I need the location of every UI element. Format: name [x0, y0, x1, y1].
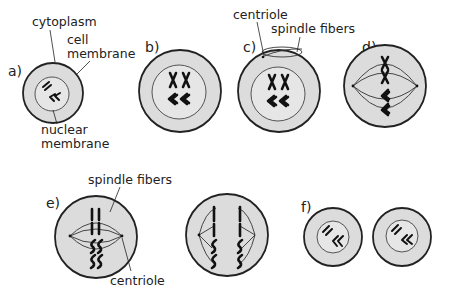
- stage-b-label: b): [145, 39, 159, 55]
- cell-d: [344, 45, 426, 127]
- centriole-d-right: [416, 85, 419, 88]
- cell-e-left: [55, 196, 137, 278]
- label-centriole-c: centriole: [233, 7, 288, 22]
- label-spindle-fibers-e: spindle fibers: [88, 172, 172, 187]
- daughter-cell-1: [304, 208, 362, 266]
- label-cell: cell: [67, 32, 89, 47]
- label-nuclear: nuclear: [41, 122, 89, 137]
- centriole-e-left: [69, 235, 72, 238]
- label-cytoplasm: cytoplasm: [32, 14, 97, 29]
- leader-centriole-c: [257, 22, 264, 56]
- stage-d: d): [344, 39, 426, 127]
- nucleus-b: [152, 65, 206, 119]
- nucleus-c: [251, 67, 305, 121]
- label-cell-membrane: membrane: [67, 46, 136, 61]
- daughter-cell-2: [373, 208, 431, 266]
- stage-c: c) centriole spindle fibers: [233, 7, 355, 132]
- centriole-e2-left: [198, 234, 201, 237]
- label-nuclear-membrane: membrane: [41, 136, 110, 151]
- stage-c-label: c): [243, 39, 256, 55]
- centriole-d-left: [352, 85, 355, 88]
- leader-cell-membrane: [76, 61, 90, 75]
- mitosis-diagram: a) cytoplasm cell membrane nuclear membr…: [0, 0, 461, 295]
- stage-f-label: f): [301, 199, 311, 215]
- stage-e-label: e): [46, 195, 60, 211]
- leader-cytoplasm: [50, 30, 55, 62]
- centriole-e-right: [121, 235, 124, 238]
- centriole-c: [262, 56, 265, 59]
- stage-e: e) spindle fibers centriole: [46, 172, 172, 288]
- stage-f: f): [301, 199, 431, 266]
- stage-a-label: a): [8, 63, 22, 79]
- stage-b: b): [139, 39, 221, 132]
- stage-e-anaphase: [186, 194, 268, 276]
- stage-a: a) cytoplasm cell membrane nuclear membr…: [8, 14, 136, 151]
- nucleus-a: [35, 77, 69, 111]
- label-centriole-e: centriole: [110, 273, 165, 288]
- label-spindle-fibers-c: spindle fibers: [271, 21, 355, 36]
